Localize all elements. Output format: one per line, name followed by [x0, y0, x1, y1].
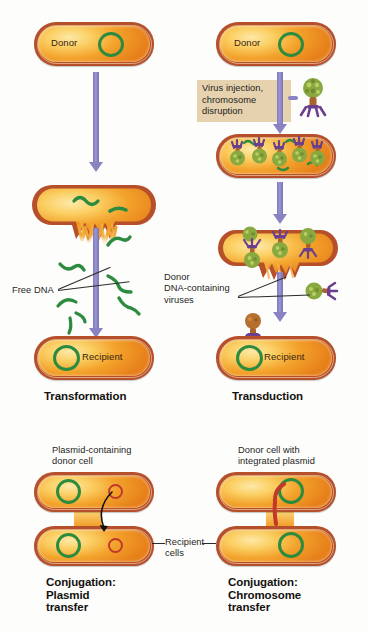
bacteriophage-icon: [296, 76, 330, 116]
transduction-arrow-top: [272, 72, 288, 134]
plasmid-donor-cell-label: Plasmid-containing donor cell: [52, 445, 182, 468]
chromosome-ring: [56, 533, 81, 558]
chromosome-ring: [278, 532, 304, 558]
chromosome-ring: [56, 479, 81, 504]
free-dna-label: Free DNA: [12, 285, 54, 296]
integrated-plasmid-strand: [262, 478, 302, 530]
infected-cell-contents: [216, 134, 336, 178]
recipient-cells-leader-line: [202, 543, 216, 544]
integrated-plasmid-donor-label: Donor cell with integrated plasmid: [238, 445, 367, 468]
transduction-arrow-middle: [272, 182, 288, 224]
free-dna-fragment: [58, 258, 86, 276]
transduction-donor-label: Donor: [234, 37, 260, 48]
recipient-cells-leader-line: [152, 543, 165, 544]
free-dna-fragment: [106, 233, 132, 249]
recipient-cells-label: Recipient cells: [165, 537, 225, 560]
figure-canvas: Donor: [0, 0, 367, 632]
free-dna-fragment: [56, 296, 80, 314]
transformation-recipient-label: Recipient: [82, 351, 123, 362]
chromosome-ring: [98, 32, 124, 57]
transduction-recipient-label: Recipient: [264, 351, 305, 362]
transformation-caption: Transformation: [44, 390, 184, 403]
transduction-caption: Transduction: [232, 390, 367, 403]
transformation-donor-label: Donor: [51, 37, 77, 48]
chromosome-recipient-cell: [216, 526, 336, 566]
free-dna-fragment: [116, 296, 142, 316]
chromosome-ring: [53, 345, 80, 371]
chromosome-ring: [236, 345, 263, 371]
plasmid-transfer-arrow-icon: [82, 486, 132, 548]
donor-dna-viruses-label: Donor DNA-containing viruses: [164, 272, 244, 306]
free-dna-fragment: [66, 316, 92, 336]
transformation-arrow-top: [88, 72, 104, 172]
bacteriophage-icon: [302, 278, 338, 304]
chromosome-ring: [278, 32, 304, 57]
conjugation-plasmid-caption: Conjugation: Plasmid transfer: [46, 576, 186, 614]
conjugation-chromosome-caption: Conjugation: Chromosome transfer: [228, 576, 367, 614]
